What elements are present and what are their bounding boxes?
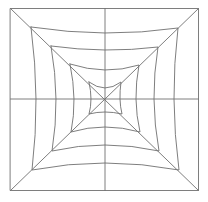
web-diagram [0,0,208,202]
web-diagram-svg [0,0,208,202]
